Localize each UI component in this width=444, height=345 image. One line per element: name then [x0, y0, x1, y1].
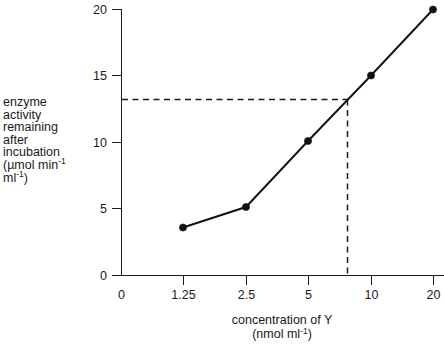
x-tick-label-10: 10: [365, 288, 379, 302]
data-point-3: [304, 137, 311, 144]
data-point-4: [367, 72, 374, 79]
data-point-1: [179, 224, 186, 231]
x-axis-title-line-1: concentration of Y: [232, 313, 333, 327]
y-tick-label-15: 15: [93, 69, 107, 83]
x-tick-label-0: 0: [118, 288, 125, 302]
series-line-enzyme-activity: [183, 10, 433, 228]
x-axis-title-line-2-text: (nmol ml: [252, 327, 300, 341]
y-tick-label-5: 5: [100, 202, 107, 216]
y-tick-label-10: 10: [93, 136, 107, 150]
y-tick-label-20: 20: [93, 3, 107, 17]
data-point-5: [429, 6, 436, 13]
chart-page: enzyme activity remaining after incubati…: [0, 0, 444, 345]
line-chart: 0 5 10 15 20 0 1.25 2.5 5 10 20 concentr…: [0, 0, 444, 345]
x-tick-label-1-25: 1.25: [171, 288, 195, 302]
x-tick-label-2-5: 2.5: [238, 288, 255, 302]
y-tick-label-0: 0: [100, 269, 107, 283]
x-axis-title-line-2: (nmol ml-1): [252, 326, 312, 341]
x-tick-label-20: 20: [427, 288, 441, 302]
data-point-2: [242, 203, 249, 210]
x-tick-label-5: 5: [305, 288, 312, 302]
x-axis-title-line-2-close: ): [308, 327, 312, 341]
